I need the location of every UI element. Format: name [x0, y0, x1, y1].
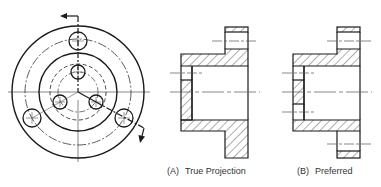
- b-top-wall: [293, 49, 360, 66]
- a-left-wall: [181, 80, 192, 120]
- section-view-true-projection: [170, 27, 260, 158]
- caption-label-a: True Projection: [185, 166, 246, 176]
- circular-end-view: [8, 13, 150, 162]
- section-view-preferred: [282, 27, 372, 158]
- caption-tag-b: (B): [297, 166, 309, 176]
- section-arrow-bottom-icon: [139, 135, 146, 143]
- caption-tag-a: (A): [167, 166, 179, 176]
- a-top-wall: [181, 49, 248, 66]
- a-bottom-wall-flange: [181, 120, 248, 158]
- b-flange-bottom-strip: [337, 151, 360, 158]
- technical-drawing: [0, 0, 381, 187]
- caption-true-projection: (A)True Projection: [167, 166, 246, 176]
- b-bottom-wall: [293, 120, 360, 131]
- a-flange-top-strip: [225, 27, 248, 32]
- section-arrow-top-icon: [60, 13, 67, 19]
- b-flange-top-strip: [337, 27, 360, 32]
- caption-label-b: Preferred: [315, 166, 353, 176]
- caption-preferred: (B)Preferred: [297, 166, 353, 176]
